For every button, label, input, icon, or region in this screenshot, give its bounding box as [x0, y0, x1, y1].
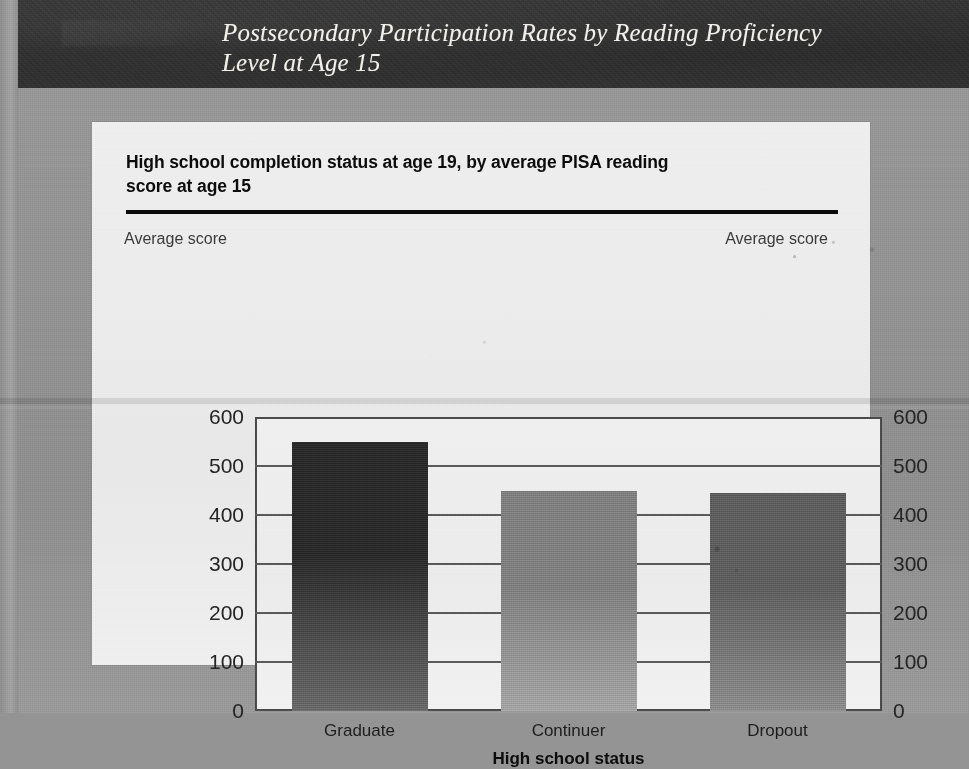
- y-tick-label-right-100: 100: [893, 650, 928, 674]
- y-tick-label-right-600: 600: [893, 405, 928, 429]
- y-tick-label-left-0: 0: [232, 699, 244, 723]
- x-label-dropout: Dropout: [747, 721, 807, 741]
- x-axis-title: High school status: [255, 749, 882, 769]
- page-left-edge-strip: [0, 0, 18, 713]
- bar-graduate: [292, 442, 428, 712]
- bar-fill: [501, 491, 637, 712]
- bar-chart-plot-area: 6005004003002001000 6005004003002001000 …: [255, 417, 882, 711]
- chart-title-line-1: High school completion status at age 19,…: [126, 150, 816, 174]
- bar-fill: [292, 442, 428, 712]
- y-tick-label-right-400: 400: [893, 503, 928, 527]
- slide-title-line-1: Postsecondary Participation Rates by Rea…: [222, 18, 942, 48]
- y-tick-label-left-100: 100: [209, 650, 244, 674]
- y-tick-label-left-300: 300: [209, 552, 244, 576]
- title-divider-rule: [126, 210, 838, 214]
- chart-card: High school completion status at age 19,…: [92, 122, 870, 665]
- y-tick-label-right-200: 200: [893, 601, 928, 625]
- bar-continuer: [501, 491, 637, 712]
- y-tick-label-right-0: 0: [893, 699, 905, 723]
- y-tick-label-right-500: 500: [893, 454, 928, 478]
- right-axis-caption: Average score: [725, 230, 828, 248]
- y-tick-label-left-400: 400: [209, 503, 244, 527]
- left-axis-caption: Average score: [124, 230, 227, 248]
- x-label-graduate: Graduate: [324, 721, 395, 741]
- y-tick-label-left-600: 600: [209, 405, 244, 429]
- y-tick-label-left-500: 500: [209, 454, 244, 478]
- slide-title-line-2: Level at Age 15: [222, 48, 942, 78]
- chart-title-line-2: score at age 15: [126, 174, 816, 198]
- chart-title: High school completion status at age 19,…: [126, 150, 816, 198]
- bar-fill: [710, 493, 846, 711]
- y-tick-label-left-200: 200: [209, 601, 244, 625]
- bar-dropout: [710, 493, 846, 711]
- slide-title: Postsecondary Participation Rates by Rea…: [222, 18, 942, 78]
- scan-ghost-artifact: [62, 20, 212, 46]
- y-tick-label-right-300: 300: [893, 552, 928, 576]
- x-label-continuer: Continuer: [532, 721, 606, 741]
- bar-series: [255, 417, 882, 711]
